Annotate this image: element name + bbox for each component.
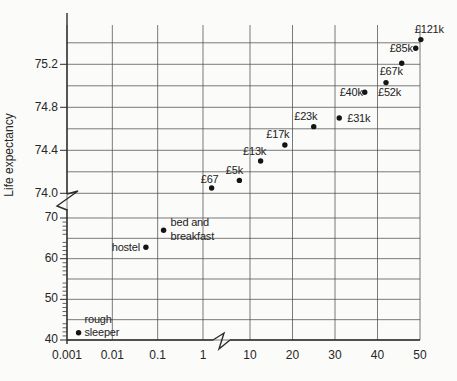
y-axis-break-icon xyxy=(57,191,78,210)
point-label-67k: £67k xyxy=(380,65,404,77)
y-tick-label-50: 50 xyxy=(45,291,59,305)
point-121k xyxy=(418,37,423,42)
y-tick-label-70: 70 xyxy=(45,210,59,224)
y-axis-title: Life expectancy xyxy=(2,113,16,196)
point-label-13k: £13k xyxy=(243,145,267,157)
point-label-17k: £17k xyxy=(266,128,290,140)
point-hostel xyxy=(143,245,148,250)
chart-figure: 4050607074.074.474.875.20.0010.010.11102… xyxy=(0,0,457,381)
x-tick-label-0.1: 0.1 xyxy=(149,348,166,362)
point-40k xyxy=(362,90,367,95)
point-17k xyxy=(282,142,287,147)
point-label-121k: £121k xyxy=(415,23,445,35)
point-label-85k: £85k xyxy=(390,42,414,54)
y-tick-label-74: 74.0 xyxy=(35,186,59,200)
point-52k xyxy=(383,80,388,85)
axes xyxy=(67,13,420,344)
vertical-gridlines xyxy=(67,25,420,340)
point-rough-sleeper xyxy=(76,330,81,335)
horizontal-gridlines xyxy=(67,43,420,340)
y-tick-label-74.8: 74.8 xyxy=(35,100,59,114)
x-tick-label-30: 30 xyxy=(328,348,342,362)
x-tick-label-40: 40 xyxy=(371,348,385,362)
point-label-40k: £40k xyxy=(340,86,364,98)
point-31k xyxy=(337,115,342,120)
x-tick-label-0.01: 0.01 xyxy=(101,348,125,362)
point-label-52k: £52k xyxy=(378,86,402,98)
point-label-bed-and-breakfast: breakfast xyxy=(171,230,215,242)
y-tick-label-40: 40 xyxy=(45,332,59,346)
x-tick-label-0.001: 0.001 xyxy=(52,348,82,362)
y-tick-label-75.2: 75.2 xyxy=(35,57,59,71)
point-bed-and-breakfast xyxy=(161,227,166,232)
point-13k xyxy=(258,158,263,163)
y-tick-label-74.4: 74.4 xyxy=(35,143,59,157)
point-label-23k: £23k xyxy=(294,110,318,122)
y-tick-label-60: 60 xyxy=(45,251,59,265)
point-23k xyxy=(311,124,316,129)
point-label-5k: £5k xyxy=(226,164,244,176)
point-label-rough-sleeper: sleeper xyxy=(85,326,120,338)
axis-break-markers xyxy=(57,191,230,349)
point-67 xyxy=(209,185,214,190)
point-5k xyxy=(237,178,242,183)
x-tick-label-1: 1 xyxy=(200,348,207,362)
point-label-bed-and-breakfast: bed and xyxy=(171,216,209,228)
point-label-rough-sleeper: rough xyxy=(85,313,112,325)
x-axis-break-icon xyxy=(213,333,230,349)
point-85k xyxy=(413,45,418,50)
point-label-hostel: hostel xyxy=(112,241,140,253)
point-label-31k: £31k xyxy=(347,112,371,124)
scatter-plot: 4050607074.074.474.875.20.0010.010.11102… xyxy=(0,0,457,381)
x-tick-label-20: 20 xyxy=(286,348,300,362)
x-tick-label-10: 10 xyxy=(243,348,257,362)
point-label-67: £67 xyxy=(201,173,219,185)
x-tick-label-50: 50 xyxy=(413,348,427,362)
data-point-labels: roughsleeperhostelbed andbreakfast£67£5k… xyxy=(85,23,445,338)
